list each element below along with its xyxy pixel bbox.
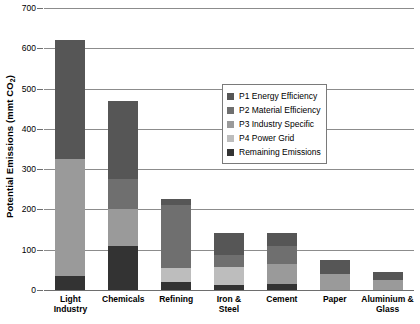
bar-segment[interactable] (320, 260, 350, 274)
bar-group[interactable] (373, 8, 403, 290)
legend-swatch-icon (227, 121, 234, 128)
bar-segment[interactable] (214, 267, 244, 285)
x-axis-tick-label-line: Steel (203, 304, 256, 314)
legend-swatch-icon (227, 135, 234, 142)
y-axis-tick (37, 89, 43, 90)
x-axis-tick-label: Cement (255, 294, 308, 304)
legend-swatch-icon (227, 93, 234, 100)
bar-group[interactable] (55, 8, 85, 290)
legend-label: P3 Industry Specific (239, 119, 314, 129)
bar-segment[interactable] (267, 264, 297, 284)
x-axis-tick-label-line: Paper (308, 294, 361, 304)
bar-segment[interactable] (55, 276, 85, 290)
y-axis-tick (37, 250, 43, 251)
legend-item[interactable]: P1 Energy Efficiency (227, 89, 321, 103)
legend-item[interactable]: Remaining Emissions (227, 145, 321, 159)
x-axis-tick-label-line: Refining (150, 294, 203, 304)
y-axis-tick (37, 129, 43, 130)
y-axis-tick (37, 169, 43, 170)
legend-label: P4 Power Grid (239, 133, 294, 143)
bar-segment[interactable] (214, 233, 244, 255)
x-axis-tick-label-line: Aluminium & (361, 294, 414, 304)
bar-segment[interactable] (214, 285, 244, 290)
bar-segment[interactable] (161, 205, 191, 267)
x-axis-tick-labels: LightIndustryChemicalsRefiningIron &Stee… (44, 292, 414, 324)
bar-segment[interactable] (161, 282, 191, 290)
bar-segment[interactable] (55, 159, 85, 276)
legend-swatch-icon (227, 149, 234, 156)
y-axis-tick (37, 8, 43, 9)
bar-group[interactable] (108, 8, 138, 290)
x-axis-tick-label-line: Chemicals (97, 294, 150, 304)
y-axis-tick-label: 700 (2, 3, 36, 13)
legend-swatch-icon (227, 107, 234, 114)
y-axis-tick (37, 290, 43, 291)
legend-item[interactable]: P4 Power Grid (227, 131, 321, 145)
bar-segment[interactable] (55, 40, 85, 159)
y-axis-tick (37, 48, 43, 49)
stacked-bar-chart: Potential Emissions (mmt CO2) 0100200300… (0, 0, 420, 324)
y-axis-tick-label: 100 (2, 245, 36, 255)
y-axis-tick-label: 300 (2, 164, 36, 174)
legend-label: P1 Energy Efficiency (239, 91, 317, 101)
y-axis-tick-label: 200 (2, 204, 36, 214)
chart-legend: P1 Energy EfficiencyP2 Material Efficien… (222, 84, 327, 164)
y-axis-tick (37, 209, 43, 210)
bar-stack (108, 8, 138, 290)
bar-segment[interactable] (161, 268, 191, 282)
y-axis-tick-labels: 0100200300400500600700 (0, 8, 36, 290)
bar-stack (161, 8, 191, 290)
y-axis-tick-label: 500 (2, 84, 36, 94)
bar-segment[interactable] (320, 274, 350, 290)
x-axis-tick-label-line: Industry (44, 304, 97, 314)
legend-label: P2 Material Efficiency (239, 105, 321, 115)
x-axis-tick-label: LightIndustry (44, 294, 97, 314)
x-axis-tick-label-line: Glass (361, 304, 414, 314)
y-axis-tick-label: 600 (2, 43, 36, 53)
bar-segment[interactable] (161, 199, 191, 205)
y-axis-tick-label: 400 (2, 124, 36, 134)
x-axis-tick-label-line: Light (44, 294, 97, 304)
x-axis-tick-label: Chemicals (97, 294, 150, 304)
bar-segment[interactable] (267, 233, 297, 246)
bar-segment[interactable] (108, 101, 138, 180)
bar-segment[interactable] (267, 284, 297, 290)
x-axis-tick-label: Paper (308, 294, 361, 304)
y-axis-tick-label: 0 (2, 285, 36, 295)
bar-segment[interactable] (108, 209, 138, 245)
bar-group[interactable] (161, 8, 191, 290)
bar-stack (373, 8, 403, 290)
bar-segment[interactable] (267, 246, 297, 264)
bar-segment[interactable] (108, 246, 138, 290)
x-axis-tick-label-line: Iron & (203, 294, 256, 304)
bar-segment[interactable] (108, 179, 138, 209)
legend-item[interactable]: P2 Material Efficiency (227, 103, 321, 117)
x-axis-tick-label-line: Cement (255, 294, 308, 304)
bar-segment[interactable] (214, 255, 244, 267)
legend-item[interactable]: P3 Industry Specific (227, 117, 321, 131)
x-axis-tick-label: Aluminium &Glass (361, 294, 414, 314)
x-axis-tick-label: Refining (150, 294, 203, 304)
bar-stack (55, 8, 85, 290)
bar-segment[interactable] (373, 280, 403, 290)
gridline (44, 290, 414, 291)
bar-segment[interactable] (373, 272, 403, 280)
legend-label: Remaining Emissions (239, 147, 321, 157)
x-axis-tick-label: Iron &Steel (203, 294, 256, 314)
